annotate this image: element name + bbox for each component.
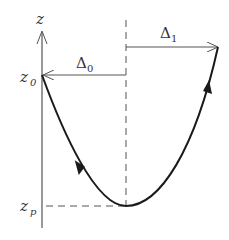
svg-text:0: 0: [87, 63, 93, 74]
zp-label: z p: [19, 197, 37, 217]
delta0-label: Δ 0: [76, 54, 93, 74]
svg-text:Δ: Δ: [160, 24, 171, 42]
z-axis: [37, 31, 47, 228]
svg-text:Δ: Δ: [76, 54, 87, 72]
z0-label: z 0: [19, 68, 37, 88]
z-axis-label: z: [35, 10, 44, 28]
up-direction-arrow-icon: [203, 80, 212, 94]
svg-text:p: p: [30, 206, 37, 217]
delta1-label: Δ 1: [160, 24, 177, 44]
trajectory-diagram: z z 0 z p Δ 0 Δ 1: [0, 0, 229, 240]
svg-text:z: z: [19, 68, 28, 86]
svg-text:1: 1: [171, 33, 177, 44]
svg-text:z: z: [19, 197, 28, 215]
trajectory-curve: [42, 47, 218, 206]
svg-text:0: 0: [30, 77, 37, 88]
down-direction-arrow-icon: [73, 160, 86, 175]
